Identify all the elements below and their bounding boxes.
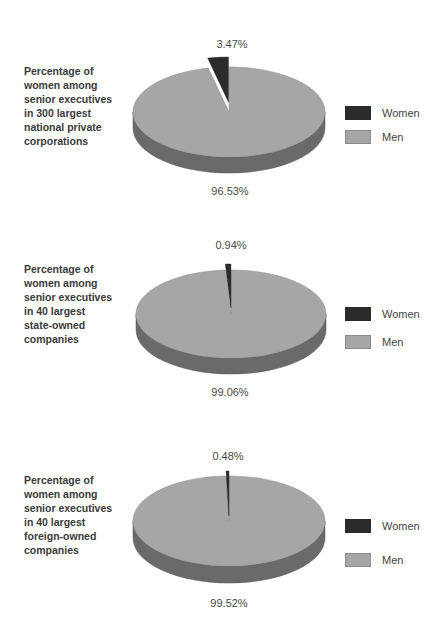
chart-description: Percentage of women among senior executi…: [24, 473, 134, 557]
legend-swatch-women: [345, 106, 371, 120]
women-percentage-label: 0.94%: [215, 239, 246, 251]
pie-slice-men: [136, 270, 326, 358]
description-line: senior executives: [24, 290, 134, 304]
legend-swatch-men: [345, 553, 371, 567]
pie-slice-women: [225, 264, 231, 308]
description-line: companies: [24, 332, 134, 346]
description-line: women among: [24, 276, 134, 290]
description-line: Percentage of: [24, 473, 134, 487]
men-percentage-label: 96.53%: [211, 185, 248, 197]
description-line: Percentage of: [24, 262, 134, 276]
legend-item-men: Men: [345, 335, 445, 351]
legend-item-men: Men: [345, 553, 445, 569]
description-line: state-owned: [24, 318, 134, 332]
legend-swatch-men: [345, 130, 371, 144]
legend-item-women: Women: [345, 307, 445, 323]
pie-side-men: [136, 314, 326, 374]
pie-chart: [0, 0, 448, 210]
legend-label-women: Women: [382, 307, 420, 321]
legend-label-women: Women: [382, 519, 420, 533]
description-line: foreign-owned: [24, 529, 134, 543]
chart-panel-private-corporations: Percentage of women among senior executi…: [0, 0, 448, 210]
legend-item-women: Women: [345, 519, 445, 535]
legend-item-women: Women: [345, 106, 445, 122]
pie-slice-men: [133, 67, 325, 157]
legend-item-men: Men: [345, 130, 445, 146]
legend-swatch-women: [345, 307, 371, 321]
pie-side-men: [133, 521, 325, 583]
description-line: senior executives: [24, 501, 134, 515]
men-percentage-label: 99.52%: [210, 597, 247, 609]
women-percentage-label: 0.48%: [212, 450, 243, 462]
description-line: companies: [24, 543, 134, 557]
legend-label-men: Men: [382, 335, 403, 349]
description-line: women among: [24, 487, 134, 501]
legend-swatch-women: [345, 519, 371, 533]
pie-slice-men: [133, 476, 325, 566]
description-line: in 40 largest: [24, 304, 134, 318]
legend-swatch-men: [345, 335, 371, 349]
legend-label-men: Men: [382, 130, 403, 144]
legend-label-men: Men: [382, 553, 403, 567]
legend-label-women: Women: [382, 106, 420, 120]
men-percentage-label: 99.06%: [211, 386, 248, 398]
description-line: in 40 largest: [24, 515, 134, 529]
chart-description: Percentage of women among senior executi…: [24, 262, 134, 346]
pie-slice-women: [226, 471, 229, 516]
